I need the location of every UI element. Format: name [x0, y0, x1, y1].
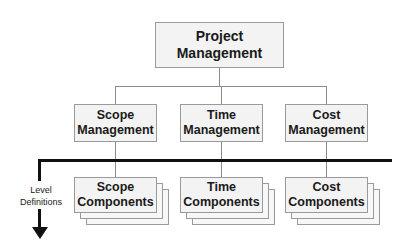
scope-components-box: ScopeComponents	[74, 177, 157, 213]
level-divider-vertical	[38, 159, 41, 181]
project-management-box: ProjectManagement	[155, 22, 284, 68]
connector-cost-up	[326, 86, 327, 104]
arrow-down-icon	[32, 227, 48, 240]
time-components-box: TimeComponents	[180, 177, 263, 213]
scope-management-box: ScopeManagement	[74, 104, 157, 142]
connector-root-down	[219, 68, 220, 86]
cost-management-box: CostManagement	[285, 104, 368, 142]
cost-components-box: CostComponents	[285, 177, 368, 213]
connector-time-up	[221, 86, 222, 104]
connector-scope-up	[115, 86, 116, 104]
level-divider	[38, 159, 392, 162]
level-definitions-label: Level Definitions	[16, 184, 66, 208]
time-management-box: TimeManagement	[180, 104, 263, 142]
